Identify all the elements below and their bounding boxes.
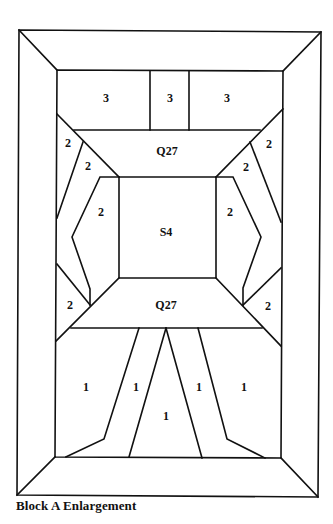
miter-bottom-left [17,457,55,495]
bottom-left-piece-edge [66,328,139,457]
piece-label-bottom-left-1: 1 [83,380,89,394]
piece-label-top-right-3: 3 [224,91,230,105]
piece-label-bottom-center-1: 1 [163,409,169,423]
piece-label-lower-left-2: 2 [67,298,73,312]
miter-top-left [19,30,57,70]
inner-frame [55,70,283,458]
bottom-right-piece-edge [198,328,265,458]
piece-label-mid-left-2: 2 [98,205,104,219]
piece-label-bottom-right-1: 1 [241,380,247,394]
piece-labels: 333Q27222222S422Q2711111 [65,91,272,423]
lower-left-diag-a [57,264,90,305]
piece-label-lower-right-2: 2 [265,299,271,313]
piece-label-upper-left-inner-2: 2 [85,159,91,173]
miter-top-right [283,32,321,71]
q27-bottom-right-diag [216,278,281,346]
piece-label-upper-left-outer-2: 2 [65,136,71,150]
upper-right-strip [250,142,281,222]
miter-bottom-right [281,458,318,497]
piece-label-top-center-3: 3 [167,91,173,105]
piece-label-top-left-3: 3 [103,91,109,105]
q27-bottom-left-diag [56,278,119,341]
q27-top-right-diag [216,109,283,177]
piece-label-mid-right-2: 2 [227,205,233,219]
block-a-diagram: 333Q27222222S422Q2711111 [0,0,333,524]
upper-left-strip [57,142,83,218]
piece-label-bottom-right-center-1: 1 [196,380,202,394]
piece-label-bottom-left-center-1: 1 [133,380,139,394]
piece-label-s4-center: S4 [160,225,173,239]
diagram-caption: Block A Enlargement [16,498,136,514]
piece-label-upper-right-inner-2: 2 [243,160,249,174]
piece-label-q27-bottom: Q27 [155,298,176,312]
piece-label-q27-top: Q27 [156,144,177,158]
piece-label-upper-right-outer-2: 2 [266,137,272,151]
